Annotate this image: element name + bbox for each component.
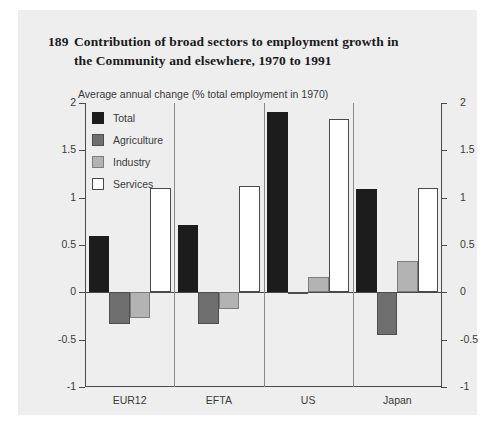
y-axis-tick-label: 1.5 — [45, 143, 76, 155]
bar-agriculture-efta — [198, 292, 219, 323]
bar-industry-efta — [219, 292, 240, 309]
bar-total-us — [267, 112, 288, 292]
group-separator-line — [174, 103, 175, 387]
x-axis-label-efta: EFTA — [206, 394, 232, 406]
y-axis-tick-label: -1 — [45, 380, 76, 392]
y-axis-tick-label: 2 — [460, 96, 490, 108]
x-axis-label-japan: Japan — [383, 394, 412, 406]
legend-item-label: Industry — [113, 156, 150, 168]
bar-industry-us — [308, 277, 329, 292]
x-axis-label-us: US — [301, 394, 316, 406]
legend-item-industry: Industry — [92, 151, 163, 173]
figure-title-line2: the Community and elsewhere, 1970 to 199… — [74, 51, 448, 70]
y-axis-tick-label: 1 — [45, 191, 76, 203]
y-tick-mark — [441, 198, 447, 199]
y-axis-tick-label: -0.5 — [460, 333, 490, 345]
square-swatch-icon — [92, 156, 104, 168]
bar-services-eur12 — [150, 188, 171, 292]
legend-item-label: Services — [113, 178, 153, 190]
y-axis-tick-label: 1 — [460, 191, 490, 203]
y-tick-mark — [79, 103, 85, 104]
bar-industry-japan — [397, 261, 418, 292]
y-axis-tick-label: 0 — [460, 285, 490, 297]
bar-total-eur12 — [89, 236, 110, 293]
bar-services-japan — [418, 188, 439, 292]
y-tick-mark — [441, 150, 447, 151]
y-axis-tick-label: 0.5 — [460, 238, 490, 250]
bar-agriculture-us — [288, 292, 309, 294]
legend-item-label: Total — [113, 112, 135, 124]
bar-total-japan — [356, 189, 377, 292]
y-tick-mark — [441, 387, 447, 388]
axis-subtitle: Average annual change (% total employmen… — [78, 88, 328, 100]
bar-total-efta — [178, 225, 199, 292]
legend-item-services: Services — [92, 173, 163, 195]
figure-panel: 189Contribution of broad sectors to empl… — [18, 10, 477, 415]
y-axis-tick-label: -0.5 — [45, 333, 76, 345]
bar-agriculture-eur12 — [109, 292, 130, 323]
y-axis-tick-label: 2 — [45, 96, 76, 108]
legend-item-agriculture: Agriculture — [92, 129, 163, 151]
figure-title: 189Contribution of broad sectors to empl… — [48, 32, 448, 70]
figure-number: 189 — [48, 32, 74, 51]
y-tick-mark — [79, 387, 85, 388]
y-tick-mark — [79, 150, 85, 151]
chart-legend: TotalAgricultureIndustryServices — [92, 107, 163, 195]
y-tick-mark — [79, 292, 85, 293]
x-axis-label-eur12: EUR12 — [113, 394, 147, 406]
y-tick-mark — [79, 245, 85, 246]
y-tick-mark — [441, 292, 447, 293]
group-separator-line — [353, 103, 354, 387]
bar-industry-eur12 — [130, 292, 151, 318]
y-tick-mark — [441, 103, 447, 104]
y-tick-mark — [441, 340, 447, 341]
square-swatch-icon — [92, 134, 104, 146]
legend-item-total: Total — [92, 107, 163, 129]
square-swatch-icon — [92, 112, 104, 124]
y-tick-mark — [79, 198, 85, 199]
bar-agriculture-japan — [377, 292, 398, 335]
figure-title-line1: Contribution of broad sectors to employm… — [74, 34, 399, 49]
y-tick-mark — [79, 340, 85, 341]
y-axis-tick-label: 1.5 — [460, 143, 490, 155]
y-axis-tick-label: 0 — [45, 285, 76, 297]
legend-item-label: Agriculture — [113, 134, 163, 146]
group-separator-line — [264, 103, 265, 387]
y-axis-tick-label: -1 — [460, 380, 490, 392]
bar-services-us — [329, 119, 350, 292]
y-tick-mark — [441, 245, 447, 246]
y-axis-tick-label: 0.5 — [45, 238, 76, 250]
square-swatch-icon — [92, 178, 104, 190]
y-axis-left-spine — [85, 103, 86, 387]
bar-services-efta — [239, 186, 260, 292]
